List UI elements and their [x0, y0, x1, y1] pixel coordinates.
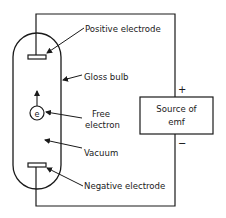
label-positive-electrode: Positive electrode [85, 23, 161, 34]
negative-electrode-plate [28, 163, 46, 167]
label-free-electron-2: electron [85, 119, 120, 130]
vacuum-tube-diagram: e Positive electrode Gloss bulb Free ele… [0, 0, 226, 218]
bottom-wire [36, 134, 175, 206]
label-free-electron-1: Free [92, 108, 110, 119]
glass-bulb-leader [63, 75, 82, 80]
free-electron-leader [46, 112, 82, 118]
minus-terminal-sign: − [178, 137, 186, 150]
label-source-of: Source of [156, 103, 197, 114]
positive-electrode-plate [28, 55, 46, 59]
emf-source: Source of emf + − [140, 83, 213, 150]
vacuum-leader [45, 140, 82, 148]
plus-terminal-sign: + [178, 83, 186, 96]
label-glass-bulb: Gloss bulb [84, 71, 129, 82]
label-vacuum: Vacuum [84, 147, 118, 158]
free-electron: e [30, 91, 44, 120]
positive-electrode-leader [47, 28, 84, 53]
label-negative-electrode: Negative electrode [84, 180, 165, 191]
label-emf: emf [168, 116, 186, 127]
leader-lines [45, 28, 84, 186]
electron-symbol: e [35, 109, 40, 119]
